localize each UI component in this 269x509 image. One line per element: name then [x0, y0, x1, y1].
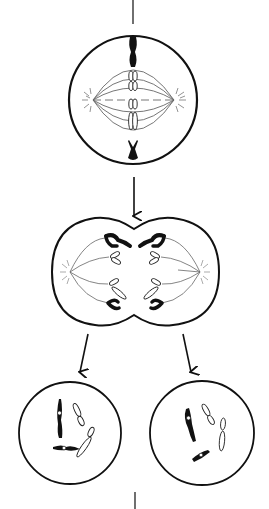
right-aster-icon	[201, 260, 210, 284]
daughter-cell-right	[150, 381, 254, 485]
right-pole-chromosomes	[140, 235, 164, 308]
mitosis-diagram: Cell division: metaphase to two daughter…	[0, 0, 269, 509]
arrow-right-down-icon	[183, 334, 191, 372]
metaphase-cell	[69, 36, 197, 164]
left-aster-icon	[60, 260, 69, 284]
right-aster-icon	[176, 88, 186, 112]
arrow-left-down-icon	[80, 334, 88, 372]
dividing-cell	[52, 218, 219, 326]
daughter-cell-left	[19, 382, 121, 484]
metaphase-chromosomes	[128, 37, 138, 160]
left-aster-icon	[82, 88, 91, 112]
left-pole-chromosomes	[106, 235, 130, 308]
